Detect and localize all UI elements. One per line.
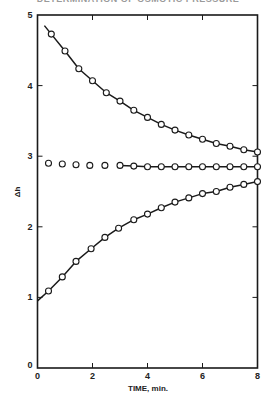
y-tick-label: 2 [27,222,32,232]
y-tick-label: 3 [27,151,32,161]
data-point-marker [255,149,261,155]
y-axis-title: Δh [13,187,22,198]
data-point-marker [241,147,247,153]
x-tick-label: 8 [255,371,260,381]
data-point-marker [46,288,52,294]
y-tick-label: 4 [27,81,32,91]
data-point-marker [73,258,79,264]
plot-axes: 02468012345 [27,10,260,381]
data-point-marker [172,164,178,170]
y-tick-label: 0 [27,360,32,370]
data-point-marker [145,114,151,120]
data-point-marker [48,31,54,37]
data-point-marker [172,199,178,205]
y-tick-label: 1 [27,292,32,302]
x-tick-label: 4 [145,371,150,381]
data-point-marker [186,164,192,170]
x-tick-label: 2 [90,371,95,381]
data-point-marker [241,164,247,170]
x-tick-label: 0 [35,371,40,381]
data-point-marker [73,162,79,168]
data-point-marker [117,98,123,104]
data-point-marker [158,164,164,170]
data-point-marker [213,164,219,170]
data-point-marker [241,181,247,187]
data-point-marker [131,163,137,169]
data-point-marker [158,121,164,127]
data-point-marker [102,162,108,168]
data-point-marker [102,234,108,240]
chart: 02468012345 TIME, min. Δh [0,0,276,402]
data-point-marker [90,78,96,84]
data-point-marker [255,164,261,170]
x-axis-title: TIME, min. [128,384,168,393]
data-point-marker [59,161,65,167]
data-point-marker [227,184,233,190]
data-point-marker [87,162,93,168]
series-line [38,182,258,301]
data-point-marker [213,141,219,147]
data-point-marker [59,274,65,280]
data-point-marker [227,164,233,170]
x-tick-label: 6 [200,371,205,381]
data-point-marker [131,107,137,113]
data-point-marker [46,160,52,166]
data-point-marker [145,211,151,217]
data-point-marker [186,195,192,201]
data-point-marker [255,179,261,185]
data-point-marker [76,66,82,72]
data-point-marker [200,191,206,197]
data-point-marker [116,225,122,231]
data-point-marker [62,48,68,54]
data-point-marker [131,217,137,223]
data-point-marker [200,164,206,170]
y-tick-label: 5 [27,10,32,20]
data-point-marker [200,136,206,142]
data-point-marker [186,132,192,138]
data-point-marker [158,205,164,211]
series-line [44,26,257,152]
data-point-marker [172,127,178,133]
data-point-marker [103,90,109,96]
plot-frame [38,15,258,368]
data-point-marker [213,189,219,195]
data-point-marker [88,246,94,252]
data-point-marker [117,162,123,168]
plot-series [38,26,261,301]
data-point-marker [227,143,233,149]
data-point-marker [145,164,151,170]
